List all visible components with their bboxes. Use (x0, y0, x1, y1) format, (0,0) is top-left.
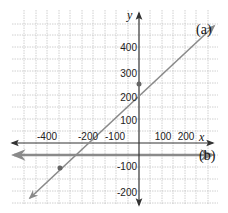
series-a-point (58, 166, 63, 171)
y-tick-200: 200 (120, 92, 137, 103)
x-tick-minus-400: -400 (37, 131, 57, 142)
x-tick-200: 200 (178, 131, 195, 142)
y-tick-100: 100 (120, 115, 137, 126)
y-tick-minus-200: -200 (117, 187, 137, 198)
series-a-point-y-intercept (137, 82, 142, 87)
y-tick-labels: 400 300 200 100 -100 -200 (117, 42, 137, 198)
y-axis-label: y (126, 8, 133, 22)
y-tick-300: 300 (120, 68, 137, 79)
x-tick-100: 100 (155, 131, 172, 142)
line-chart: y x 400 300 200 100 -100 -200 -400 -200 … (0, 0, 228, 213)
x-tick-minus-100: -100 (105, 131, 125, 142)
x-tick-minus-200: -200 (78, 131, 98, 142)
x-axis-label: x (198, 130, 205, 144)
y-tick-minus-100: -100 (117, 161, 137, 172)
x-tick-labels: -400 -200 -100 100 200 (37, 131, 195, 142)
grid (12, 10, 218, 205)
series-a-label: (a) (196, 22, 212, 38)
series-b-label: (b) (199, 148, 216, 164)
y-tick-400: 400 (120, 42, 137, 53)
